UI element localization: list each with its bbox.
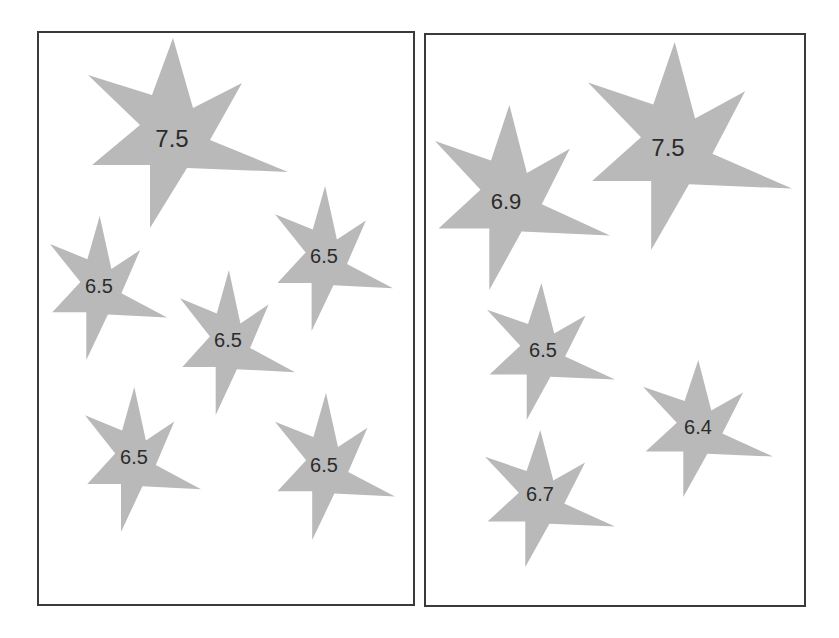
star-icon — [435, 105, 610, 290]
star-value-label: 6.5 — [85, 275, 113, 297]
star-shape: 6.5 — [180, 270, 295, 415]
star-shape: 6.5 — [487, 283, 615, 420]
star-value-label: 6.4 — [684, 416, 712, 438]
star-value-label: 7.5 — [651, 134, 684, 161]
star-shape: 6.5 — [275, 186, 393, 331]
star-shape: 6.5 — [275, 393, 395, 540]
stars-canvas: 7.56.56.56.56.56.56.97.56.56.46.7 — [0, 0, 839, 638]
star-value-label: 6.5 — [310, 454, 338, 476]
star-shape: 6.4 — [643, 360, 773, 497]
star-value-label: 6.5 — [214, 329, 242, 351]
star-shape: 7.5 — [588, 42, 792, 250]
star-value-label: 6.5 — [529, 339, 557, 361]
star-value-label: 6.7 — [526, 483, 554, 505]
star-value-label: 6.5 — [120, 446, 148, 468]
star-value-label: 7.5 — [155, 125, 188, 152]
star-icon — [588, 42, 792, 250]
star-value-label: 6.5 — [310, 245, 338, 267]
right-panel-stars: 6.97.56.56.46.7 — [435, 42, 792, 567]
left-panel-stars: 7.56.56.56.56.56.5 — [50, 38, 395, 540]
star-shape: 6.5 — [85, 387, 201, 532]
star-shape: 7.5 — [88, 38, 288, 228]
star-value-label: 6.9 — [491, 189, 522, 214]
star-shape: 6.9 — [435, 105, 610, 290]
star-shape: 6.5 — [50, 216, 167, 360]
star-shape: 6.7 — [485, 430, 615, 567]
